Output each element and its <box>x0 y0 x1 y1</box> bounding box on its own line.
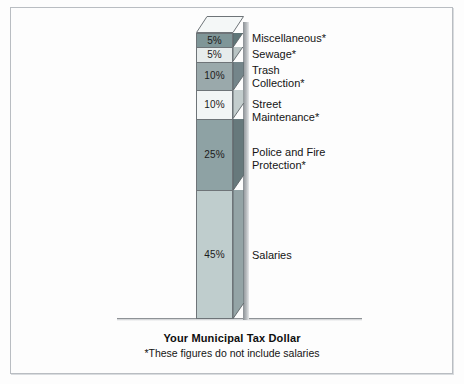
bar-segment-value-label: 5% <box>207 36 222 46</box>
bar-segment-side-face <box>233 119 244 191</box>
bar-segment-side-face <box>233 62 244 91</box>
segment-label: Trash Collection* <box>252 64 305 90</box>
segment-label: Salaries <box>252 249 292 262</box>
segment-label: Sewage* <box>252 48 296 61</box>
bar-segment: 45% <box>196 190 244 319</box>
bar-segment: 5% <box>196 33 244 47</box>
bar-segment-front-face: 10% <box>196 90 233 119</box>
bar-segment-front-face: 5% <box>196 33 233 47</box>
bar-segment-side-face <box>233 33 244 47</box>
bar-segment-value-label: 5% <box>207 50 222 60</box>
bar-segment: 10% <box>196 90 244 119</box>
caption-footnote: *These figures do not include salaries <box>0 346 464 360</box>
segment-label: Miscellaneous* <box>252 32 326 45</box>
bar-segment-value-label: 45% <box>204 250 224 260</box>
bar-segment-side-face <box>233 190 244 319</box>
tax-dollar-chart-figure: 5%5%10%10%25%45% Miscellaneous*Sewage*Tr… <box>0 0 464 384</box>
bar-top-face <box>196 16 244 33</box>
bar-segment-side-face <box>233 47 244 61</box>
bar-segment-value-label: 25% <box>204 150 224 160</box>
bar-segment-stack: 5%5%10%10%25%45% <box>196 33 244 319</box>
bar-segment-front-face: 5% <box>196 47 233 61</box>
bar-segment-value-label: 10% <box>204 100 224 110</box>
bar-segment-side-face <box>233 90 244 119</box>
bar-segment-front-face: 25% <box>196 119 233 191</box>
bar-segment: 25% <box>196 119 244 191</box>
segment-label: Street Maintenance* <box>252 98 319 124</box>
bar-segment-front-face: 45% <box>196 190 233 319</box>
chart-caption: Your Municipal Tax Dollar *These figures… <box>0 331 464 360</box>
bar-segment: 10% <box>196 62 244 91</box>
bar-segment-value-label: 10% <box>204 71 224 81</box>
segment-label: Police and Fire Protection* <box>252 146 325 172</box>
bar-segment-front-face: 10% <box>196 62 233 91</box>
caption-title: Your Municipal Tax Dollar <box>0 331 464 346</box>
segment-label-list: Miscellaneous*Sewage*Trash Collection*St… <box>252 0 432 330</box>
bar-segment: 5% <box>196 47 244 61</box>
stacked-bar-3d: 5%5%10%10%25%45% <box>196 16 244 319</box>
